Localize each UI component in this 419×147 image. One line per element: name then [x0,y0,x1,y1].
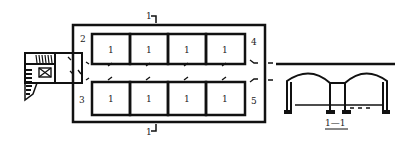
room-top-3-label: 1 [184,45,190,55]
plan-labels: 1 1 2 3 4 5 1 1 1 1 1 1 1 1 [79,11,257,137]
room-top-1-label: 1 [108,45,114,55]
drawing-canvas: 1 1 2 3 4 5 1 1 1 1 1 1 1 1 [0,0,419,147]
right-exit-marker [268,63,273,80]
area-4-label: 4 [251,37,257,47]
floor-plan [25,16,273,131]
area-2-label: 2 [80,34,86,44]
room-top-4-label: 1 [222,45,228,55]
footings [284,110,390,114]
area-5-label: 5 [251,96,257,106]
area-3-label: 3 [79,95,85,105]
room-top-2-label: 1 [146,45,152,55]
room-bottom-3-label: 1 [184,94,190,104]
section-marker-bottom-label: 1 [146,127,152,137]
section-marker-top-label: 1 [146,11,152,21]
room-bottom-1-label: 1 [108,94,114,104]
room-bottom-4-label: 1 [222,94,228,104]
section-title: 1—1 [325,118,345,128]
vaults [287,73,387,112]
room-bottom-2-label: 1 [146,94,152,104]
